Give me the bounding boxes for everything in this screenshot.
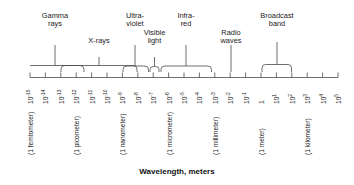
tick-label: 10-2 xyxy=(227,92,234,104)
unit-femtometer: (1 femtometer) xyxy=(27,112,34,155)
tick-label: 10-9 xyxy=(119,92,126,104)
bracket-visible-light xyxy=(150,57,159,72)
unit-meter: (1 meter) xyxy=(258,128,265,155)
tick-label: 10-1 xyxy=(243,92,250,104)
tick-label: 10-13 xyxy=(58,89,65,104)
band-label-infrared: Infra- red xyxy=(161,12,211,29)
tick-label: 10-6 xyxy=(166,92,173,104)
electromagnetic-spectrum-figure: Gamma rays X-rays Ultra- violet Visible … xyxy=(0,0,354,185)
bracket-x-rays xyxy=(61,57,137,72)
tick-label: 104 xyxy=(320,94,327,104)
unit-kilometer: (1 kilometer) xyxy=(304,118,311,155)
tick-label: 103 xyxy=(304,94,311,104)
unit-micrometer: (1 micrometer) xyxy=(166,112,173,155)
tick-label: 10-15 xyxy=(27,89,34,104)
tick-label: 10-8 xyxy=(135,92,142,104)
tick-label: 105 xyxy=(335,94,342,104)
band-label-visible-light: Visible light xyxy=(128,29,181,46)
band-label-x-rays: X-rays xyxy=(69,37,129,45)
band-label-ultraviolet: Ultra- violet xyxy=(107,12,163,29)
tick-label: 10-14 xyxy=(42,89,49,104)
axis-title: Wavelength, meters xyxy=(0,167,354,176)
bracket-ultraviolet xyxy=(123,45,149,72)
tick-label: 10-11 xyxy=(89,90,96,104)
unit-millimeter: (1 millimeter) xyxy=(212,117,219,155)
tick-label: 10-4 xyxy=(196,92,203,104)
unit-picometer: (1 picometer) xyxy=(73,116,80,155)
tick-label: 101 xyxy=(273,94,280,104)
bracket-infrared xyxy=(161,45,212,72)
bracket-gamma-rays xyxy=(30,45,84,72)
tick-label: 10-12 xyxy=(73,89,80,104)
tick-label: 10-3 xyxy=(212,92,219,104)
tick-label: 10-5 xyxy=(181,92,188,104)
tick-label: 1 xyxy=(258,100,265,104)
tick-label: 10-10 xyxy=(104,89,111,104)
band-label-radio-waves: Radio waves xyxy=(203,29,259,46)
tick-label: 102 xyxy=(289,94,296,104)
band-label-broadcast-band: Broadcast band xyxy=(245,12,309,29)
band-label-gamma-rays: Gamma rays xyxy=(23,12,87,29)
bracket-broadcast-band xyxy=(262,42,292,72)
tick-label: 10-7 xyxy=(150,92,157,104)
unit-nanometer: (1 nanometer) xyxy=(119,114,126,155)
